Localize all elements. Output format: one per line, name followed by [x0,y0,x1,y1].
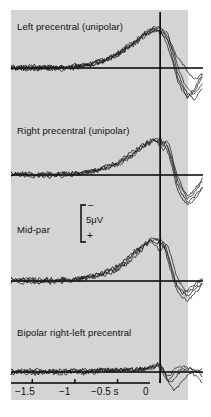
x-tick-label-minus-1-5: −1.5 [15,386,35,397]
calibration-amplitude-label: 5μV [86,214,103,225]
x-tick-label-zero: 0 [143,386,149,397]
erp-figure: Left precentral (unipolar) Right precent… [0,0,211,417]
panel-label-right-precentral: Right precentral (unipolar) [17,125,130,136]
waveform-plot-canvas [0,0,211,417]
panel-label-left-precentral: Left precentral (unipolar) [17,21,123,32]
x-tick-label-minus-0-5-s: −0.5 s [91,386,119,397]
panel-label-mid-par: Mid-par [17,224,50,235]
calibration-negative-sign: − [88,201,94,211]
panel-label-bipolar-right-left-precentral: Bipolar right-left precentral [17,327,131,338]
x-tick-label-minus-1: −1 [59,386,70,397]
calibration-positive-sign: + [87,231,93,241]
